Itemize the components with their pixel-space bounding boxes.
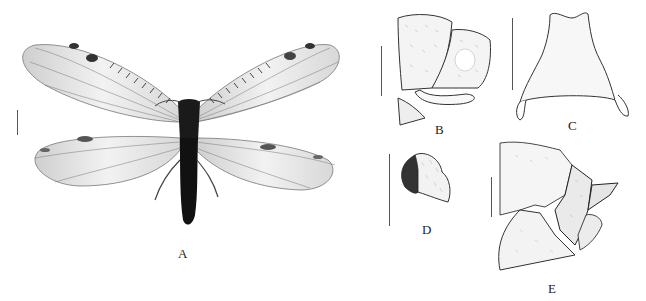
panel-label-c: C	[568, 118, 577, 134]
panel-label-b: B	[435, 122, 444, 138]
wing-spot	[86, 54, 98, 62]
insect-habitus	[0, 0, 350, 301]
thorax	[178, 99, 200, 140]
panel-d: D	[370, 140, 490, 240]
wing-spot	[305, 43, 315, 49]
panel-label-a: A	[178, 246, 187, 262]
wing-spot	[260, 144, 276, 150]
abdomen	[180, 138, 198, 225]
left-forewing	[23, 45, 183, 122]
panel-a: A	[0, 0, 350, 301]
wing-spot	[40, 148, 50, 152]
panel-label-d: D	[422, 222, 431, 238]
wing-spot	[77, 136, 93, 142]
panel-b: B	[370, 0, 510, 145]
terminalia-lateral-e	[480, 135, 646, 301]
wing-spot	[313, 155, 323, 159]
wing-spot	[284, 52, 296, 60]
panel-c: C	[500, 0, 646, 145]
panel-e: E	[480, 135, 646, 301]
wing-spot	[69, 43, 79, 49]
panel-label-e: E	[548, 281, 556, 297]
